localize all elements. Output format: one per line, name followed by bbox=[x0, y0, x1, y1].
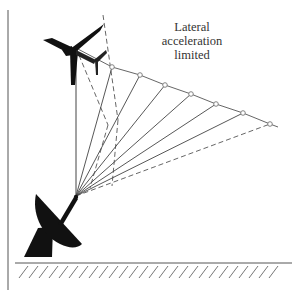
caption-lateral-acceleration-limited: Lateral acceleration limited bbox=[150, 20, 234, 62]
caption-line-1: Lateral bbox=[150, 20, 234, 34]
trajectory-markers bbox=[110, 65, 273, 127]
aircraft-icon bbox=[76, 50, 107, 75]
radar-dish-icon bbox=[24, 194, 82, 257]
caption-line-3: limited bbox=[150, 48, 234, 62]
radar-rays bbox=[76, 67, 243, 196]
aircraft-icon bbox=[43, 24, 104, 85]
ground bbox=[15, 263, 292, 278]
caption-line-2: acceleration bbox=[150, 34, 234, 48]
